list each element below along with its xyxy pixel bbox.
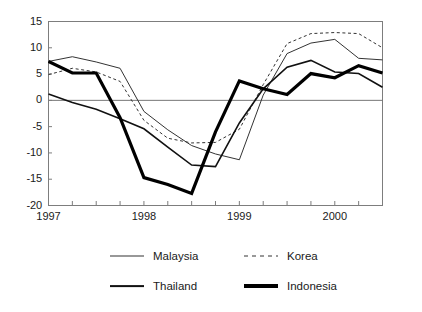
y-tick-label: -10 <box>12 147 42 158</box>
legend-line-glyph <box>244 256 278 257</box>
x-tick-label: 2000 <box>323 210 347 222</box>
legend-line-glyph <box>110 285 144 287</box>
chart-lines <box>48 21 383 206</box>
y-tick-label: 0 <box>12 94 42 105</box>
legend-row: Thailand Indonesia <box>110 276 360 302</box>
legend-swatch-line-icon <box>110 250 144 262</box>
y-tick-label: 10 <box>12 42 42 53</box>
legend-label: Indonesia <box>287 280 337 293</box>
legend-row: Malaysia Korea <box>110 246 360 272</box>
legend-label: Malaysia <box>153 250 198 263</box>
x-tick-label: 1998 <box>132 210 156 222</box>
legend-item-malaysia: Malaysia <box>110 246 198 266</box>
y-tick-label: 15 <box>12 16 42 27</box>
legend-swatch-line-icon <box>110 280 144 292</box>
legend-item-indonesia: Indonesia <box>244 276 337 296</box>
y-tick-label: 5 <box>12 68 42 79</box>
series-line-malaysia <box>49 39 383 159</box>
chart-legend: Malaysia Korea Thailand Indonesia <box>110 246 360 306</box>
series-line-korea <box>49 33 383 143</box>
legend-label: Thailand <box>153 280 197 293</box>
x-axis-labels: 1997199819992000 <box>48 210 383 226</box>
legend-swatch-dashed-icon <box>244 250 278 262</box>
y-axis-labels: 151050-5-10-15-20 <box>8 21 42 206</box>
y-tick-label: -15 <box>12 173 42 184</box>
plot-area <box>48 21 383 206</box>
legend-line-glyph <box>244 284 278 288</box>
x-tick-label: 1999 <box>227 210 251 222</box>
legend-item-korea: Korea <box>244 246 318 266</box>
series-line-indonesia <box>49 61 383 193</box>
legend-swatch-thick-line-icon <box>244 280 278 292</box>
legend-line-glyph <box>110 256 144 257</box>
x-tick-label: 1997 <box>36 210 60 222</box>
y-tick-label: -20 <box>12 200 42 211</box>
y-tick-label: -5 <box>12 121 42 132</box>
legend-item-thailand: Thailand <box>110 276 197 296</box>
legend-label: Korea <box>287 250 318 263</box>
chart-figure: 151050-5-10-15-20 1997199819992000 Malay… <box>0 0 422 312</box>
